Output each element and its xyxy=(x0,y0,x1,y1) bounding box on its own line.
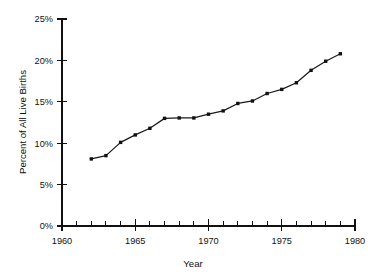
data-series xyxy=(90,52,342,161)
y-tick-label: 5% xyxy=(40,180,53,190)
x-axis: 19601965197019751980 xyxy=(52,219,365,246)
series-markers xyxy=(90,52,342,161)
y-axis-title: Percent of All Live Births xyxy=(17,70,28,174)
data-point xyxy=(251,99,254,102)
data-point xyxy=(221,109,224,112)
data-point xyxy=(265,92,268,95)
data-point xyxy=(280,88,283,91)
data-point xyxy=(295,81,298,84)
data-point xyxy=(163,117,166,120)
data-point xyxy=(324,60,327,63)
y-tick-label: 20% xyxy=(35,56,53,66)
data-point xyxy=(236,102,239,105)
data-point xyxy=(148,127,151,130)
data-point xyxy=(309,69,312,72)
x-tick-label: 1980 xyxy=(345,236,365,246)
y-tick-label: 0% xyxy=(40,221,53,231)
x-tick-label: 1965 xyxy=(125,236,145,246)
x-axis-title: Year xyxy=(183,258,203,269)
data-point xyxy=(339,52,342,55)
data-point xyxy=(192,116,195,119)
line-chart: 0%5%10%15%20%25% 19601965197019751980 Ye… xyxy=(0,0,387,274)
data-point xyxy=(207,113,210,116)
x-tick-label: 1975 xyxy=(272,236,292,246)
data-point xyxy=(104,154,107,157)
series-line xyxy=(91,54,340,159)
chart-container: 0%5%10%15%20%25% 19601965197019751980 Ye… xyxy=(0,0,387,274)
y-tick-label: 15% xyxy=(35,97,53,107)
data-point xyxy=(90,157,93,160)
x-axis-tick-labels: 19601965197019751980 xyxy=(52,236,365,246)
x-tick-label: 1960 xyxy=(52,236,72,246)
data-point xyxy=(178,116,181,119)
x-tick-label: 1970 xyxy=(198,236,218,246)
data-point xyxy=(134,133,137,136)
y-axis: 0%5%10%15%20%25% xyxy=(35,14,67,231)
y-tick-label: 10% xyxy=(35,139,53,149)
y-axis-tick-labels: 0%5%10%15%20%25% xyxy=(35,14,53,231)
y-tick-label: 25% xyxy=(35,14,53,24)
data-point xyxy=(119,141,122,144)
